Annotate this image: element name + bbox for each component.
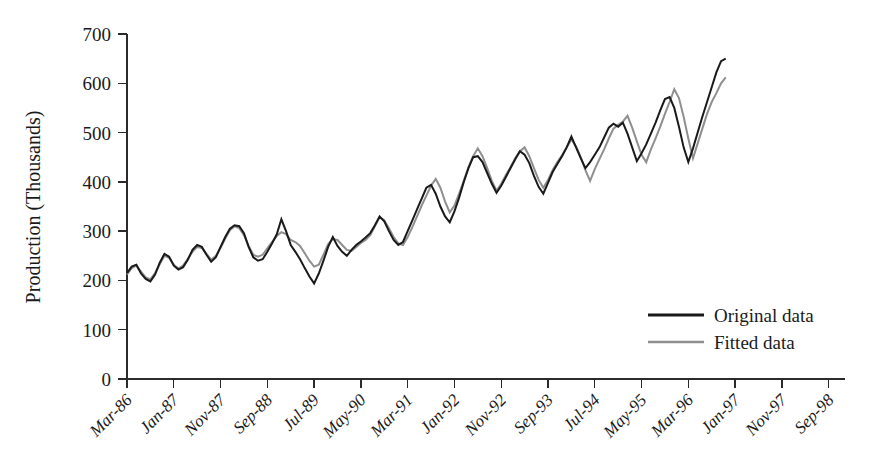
y-axis-title: Production (Thousands)	[22, 111, 45, 304]
production-line-chart: 0100200300400500600700 Mar-86Jan-87Nov-8…	[0, 0, 869, 471]
x-tick-label: Jul-89	[279, 390, 323, 434]
x-tick-label: Sep-88	[229, 390, 276, 437]
x-tick-label: May-95	[599, 390, 651, 442]
y-tick-labels: 0100200300400500600700	[83, 24, 112, 390]
x-tick-label: Sep-98	[791, 390, 838, 437]
chart-container: 0100200300400500600700 Mar-86Jan-87Nov-8…	[0, 0, 869, 471]
x-tick-label: Jan-92	[416, 390, 463, 437]
y-tick-label: 200	[83, 270, 112, 291]
x-tick-label: Jan-97	[697, 389, 745, 437]
y-axis: 0100200300400500600700	[83, 24, 128, 390]
y-tick-label: 0	[102, 369, 112, 390]
x-tick-label: Mar-91	[366, 390, 417, 441]
x-tick-marks	[127, 379, 829, 388]
y-tick-label: 300	[83, 221, 112, 242]
x-tick-labels: Mar-86Jan-87Nov-87Sep-88Jul-89May-90Mar-…	[85, 389, 838, 442]
y-tick-label: 500	[83, 123, 112, 144]
series-original-data	[127, 59, 726, 284]
y-tick-label: 100	[83, 320, 112, 341]
x-axis: Mar-86Jan-87Nov-87Sep-88Jul-89May-90Mar-…	[85, 379, 845, 442]
legend-label-fitted: Fitted data	[714, 332, 795, 353]
x-tick-label: Nov-87	[180, 389, 231, 440]
x-tick-label: Sep-93	[510, 390, 557, 437]
legend-label-original: Original data	[714, 305, 814, 326]
y-tick-label: 400	[83, 172, 112, 193]
x-tick-label: Jan-87	[136, 389, 184, 437]
x-tick-label: May-90	[318, 390, 370, 442]
x-tick-label: Jul-94	[559, 390, 603, 434]
data-series	[127, 59, 726, 284]
chart-legend: Original dataFitted data	[648, 305, 814, 353]
x-tick-label: Mar-86	[85, 390, 136, 441]
y-tick-label: 700	[83, 24, 112, 45]
series-fitted-data	[127, 77, 726, 279]
y-tick-label: 600	[83, 73, 112, 94]
y-tick-marks	[118, 34, 127, 379]
x-tick-label: Nov-92	[461, 390, 511, 440]
x-tick-label: Mar-96	[647, 390, 698, 441]
x-tick-label: Nov-97	[741, 389, 792, 440]
